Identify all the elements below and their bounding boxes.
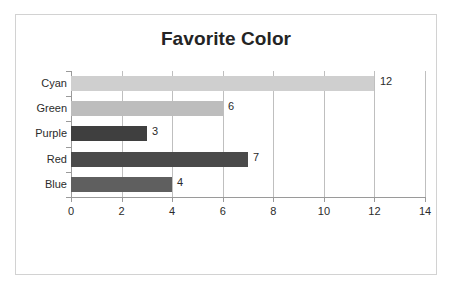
bar-red[interactable]: [71, 152, 248, 167]
x-axis-line: [71, 197, 426, 198]
plot-area: 12 6 3 7 4: [71, 71, 425, 197]
bar-row-blue: 4: [71, 172, 425, 197]
x-axis-tick-8: [273, 197, 274, 202]
bar-value-purple: 3: [152, 125, 158, 137]
bar-row-red: 7: [71, 147, 425, 172]
x-axis-label-4: 4: [152, 205, 192, 217]
x-axis-label-14: 14: [405, 205, 445, 217]
gridline-14: [425, 71, 426, 197]
y-axis-label-cyan: Cyan: [15, 71, 67, 96]
bar-value-green: 6: [228, 100, 234, 112]
x-axis-tick-2: [122, 197, 123, 202]
y-axis-labels: Cyan Green Purple Red Blue: [16, 71, 67, 197]
x-axis-tick-6: [223, 197, 224, 202]
bar-row-purple: 3: [71, 121, 425, 146]
y-axis-label-blue: Blue: [15, 172, 67, 197]
x-axis-label-2: 2: [102, 205, 142, 217]
bar-row-green: 6: [71, 96, 425, 121]
x-axis-tick-14: [425, 197, 426, 202]
x-axis-tick-10: [324, 197, 325, 202]
chart-title: Favorite Color: [16, 28, 436, 50]
x-axis-label-8: 8: [253, 205, 293, 217]
bar-value-red: 7: [253, 151, 259, 163]
x-axis-tick-0: [71, 197, 72, 202]
x-axis-label-6: 6: [203, 205, 243, 217]
x-axis-label-0: 0: [51, 205, 91, 217]
chart-figure: Favorite Color Cyan Green Purple Red Blu…: [15, 14, 437, 275]
y-axis-label-green: Green: [15, 96, 67, 121]
bar-value-blue: 4: [177, 176, 183, 188]
y-axis-label-purple: Purple: [15, 121, 67, 146]
x-axis-label-10: 10: [304, 205, 344, 217]
bar-purple[interactable]: [71, 126, 147, 141]
x-axis-tick-4: [172, 197, 173, 202]
bar-value-cyan: 12: [380, 75, 392, 87]
y-axis-label-red: Red: [15, 147, 67, 172]
bar-row-cyan: 12: [71, 71, 425, 96]
x-axis-tick-12: [374, 197, 375, 202]
bar-green[interactable]: [71, 101, 223, 116]
bar-blue[interactable]: [71, 177, 172, 192]
x-axis-label-12: 12: [354, 205, 394, 217]
bar-cyan[interactable]: [71, 76, 374, 91]
